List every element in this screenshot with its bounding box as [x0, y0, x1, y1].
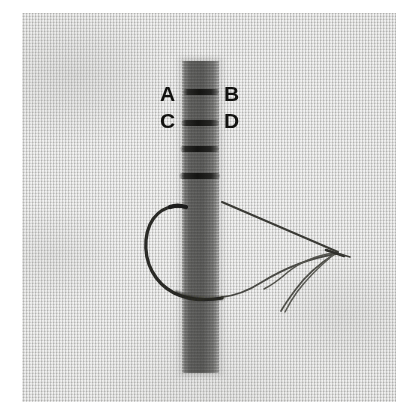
label-b: B — [224, 83, 239, 104]
stitch-bar-1 — [183, 89, 219, 95]
stitch-bar-3 — [180, 146, 219, 152]
photograph-canvas: ABCD — [0, 0, 413, 414]
label-c: C — [160, 110, 175, 131]
label-d: D — [224, 110, 239, 131]
stitch-bar-4 — [179, 173, 220, 179]
stitch-bar-2 — [181, 120, 219, 126]
dark-fabric-strip — [182, 61, 219, 373]
label-a: A — [160, 83, 175, 104]
